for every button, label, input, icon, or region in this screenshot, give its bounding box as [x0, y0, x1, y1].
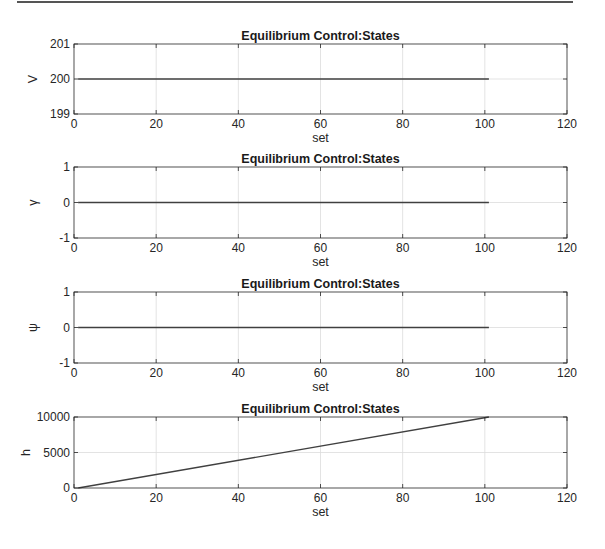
y-tick-label: 1 — [63, 285, 70, 299]
x-tick-label: 100 — [475, 241, 495, 255]
x-tick-label: 60 — [314, 117, 328, 131]
x-tick-label: 60 — [314, 241, 328, 255]
y-tick-label: 199 — [50, 107, 70, 121]
subplot-2: 020406080100120-101Equilibrium Control:S… — [26, 152, 577, 269]
x-axis-label: set — [312, 505, 329, 519]
figure: 020406080100120199200201Equilibrium Cont… — [0, 0, 605, 549]
x-tick-label: 100 — [475, 117, 495, 131]
x-tick-label: 20 — [149, 366, 163, 380]
x-tick-label: 20 — [149, 491, 163, 505]
x-tick-label: 80 — [396, 241, 410, 255]
x-tick-label: 40 — [232, 491, 246, 505]
x-axis-label: set — [312, 255, 329, 269]
y-axis-label: h — [19, 449, 33, 456]
x-axis-label: set — [312, 380, 329, 394]
x-tick-label: 120 — [557, 117, 577, 131]
x-tick-label: 60 — [314, 366, 328, 380]
y-tick-label: 5000 — [43, 446, 70, 460]
x-tick-label: 0 — [71, 366, 78, 380]
y-tick-label: -1 — [59, 231, 70, 245]
x-tick-label: 120 — [557, 241, 577, 255]
x-tick-label: 0 — [71, 491, 78, 505]
subplot-title: Equilibrium Control:States — [241, 402, 399, 416]
subplot-3: 020406080100120-101Equilibrium Control:S… — [26, 277, 577, 394]
x-tick-label: 80 — [396, 491, 410, 505]
x-tick-label: 80 — [396, 117, 410, 131]
subplot-1: 020406080100120199200201Equilibrium Cont… — [26, 29, 577, 145]
x-tick-label: 100 — [475, 491, 495, 505]
subplot-4: 0204060801001200500010000Equilibrium Con… — [19, 402, 577, 519]
y-tick-label: 10000 — [37, 410, 71, 424]
x-tick-label: 40 — [232, 241, 246, 255]
y-tick-label: 200 — [50, 72, 70, 86]
y-axis-label: ψ — [26, 323, 40, 332]
x-tick-label: 100 — [475, 366, 495, 380]
y-tick-label: 0 — [63, 321, 70, 335]
y-tick-label: 201 — [50, 37, 70, 51]
x-tick-label: 80 — [396, 366, 410, 380]
x-tick-label: 120 — [557, 491, 577, 505]
x-tick-label: 120 — [557, 366, 577, 380]
x-tick-label: 60 — [314, 491, 328, 505]
y-tick-label: -1 — [59, 356, 70, 370]
x-tick-label: 20 — [149, 117, 163, 131]
subplot-title: Equilibrium Control:States — [241, 152, 399, 166]
y-tick-label: 1 — [63, 160, 70, 174]
subplot-title: Equilibrium Control:States — [241, 29, 399, 43]
y-tick-label: 0 — [63, 196, 70, 210]
y-axis-label: V — [26, 74, 40, 83]
x-tick-label: 0 — [71, 241, 78, 255]
x-tick-label: 20 — [149, 241, 163, 255]
subplot-title: Equilibrium Control:States — [241, 277, 399, 291]
y-axis-label: γ — [26, 199, 40, 206]
x-axis-label: set — [312, 131, 329, 145]
x-tick-label: 40 — [232, 366, 246, 380]
x-tick-label: 40 — [232, 117, 246, 131]
y-tick-label: 0 — [63, 481, 70, 495]
x-tick-label: 0 — [71, 117, 78, 131]
